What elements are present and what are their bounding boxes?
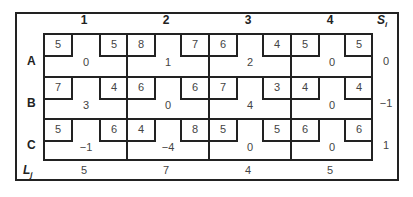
cost-box: 5 — [210, 120, 238, 142]
cost-box: 4 — [292, 78, 320, 100]
si-value-a: 0 — [376, 55, 396, 67]
row-header-a: A — [27, 54, 41, 68]
reduced-cost-box: 4 — [262, 35, 290, 57]
cost-box: 6 — [128, 78, 156, 100]
reduced-cost-box: 5 — [99, 35, 127, 57]
cell-value: 0 — [128, 99, 208, 111]
cost-box: 6 — [210, 35, 238, 57]
cell-value: 0 — [210, 141, 290, 153]
reduced-cost-box: 4 — [99, 78, 127, 100]
reduced-cost-box: 6 — [180, 78, 208, 100]
cell-value: 0 — [45, 56, 127, 68]
reduced-cost-box: 8 — [180, 120, 208, 142]
lj-value-1: 5 — [43, 164, 125, 176]
column-header-1: 1 — [43, 13, 125, 27]
cell-a1: 5 5 0 — [45, 35, 127, 77]
cell-value: 0 — [292, 141, 372, 153]
lj-value-4: 5 — [289, 164, 371, 176]
cost-grid: 5 5 0 8 7 1 6 4 2 5 5 0 7 4 3 6 6 0 7 3 … — [43, 33, 373, 161]
cell-value: 0 — [292, 56, 372, 68]
cell-a4: 5 5 0 — [290, 35, 372, 77]
cost-box: 5 — [45, 120, 73, 142]
cell-b3: 7 3 4 — [208, 76, 290, 118]
reduced-cost-box: 7 — [180, 35, 208, 57]
column-header-4: 4 — [289, 13, 371, 27]
cell-c2: 4 8 −4 — [126, 118, 208, 160]
reduced-cost-box: 5 — [344, 35, 372, 57]
reduced-cost-box: 6 — [344, 120, 372, 142]
cell-value: 4 — [210, 99, 290, 111]
column-header-2: 2 — [125, 13, 207, 27]
reduced-cost-box: 6 — [99, 120, 127, 142]
lj-header: Lj — [23, 163, 33, 179]
cost-box: 5 — [45, 35, 73, 57]
cost-box: 6 — [292, 120, 320, 142]
lj-value-2: 7 — [125, 164, 207, 176]
cell-value: −4 — [128, 141, 208, 153]
cost-box: 8 — [128, 35, 156, 57]
cell-a2: 8 7 1 — [126, 35, 208, 77]
cell-c1: 5 6 −1 — [45, 118, 127, 160]
cell-c4: 6 6 0 — [290, 118, 372, 160]
cell-value: 0 — [292, 99, 372, 111]
cell-value: 1 — [128, 56, 208, 68]
cell-value: 3 — [45, 99, 127, 111]
cell-b4: 4 4 0 — [290, 76, 372, 118]
row-header-c: C — [27, 138, 41, 152]
cell-value: 2 — [210, 56, 290, 68]
row-header-b: B — [27, 96, 41, 110]
cell-b1: 7 4 3 — [45, 76, 127, 118]
cost-box: 7 — [210, 78, 238, 100]
cost-box: 4 — [128, 120, 156, 142]
cell-value: −1 — [45, 141, 127, 153]
cost-box: 5 — [292, 35, 320, 57]
reduced-cost-box: 3 — [262, 78, 290, 100]
cost-box: 7 — [45, 78, 73, 100]
reduced-cost-box: 4 — [344, 78, 372, 100]
si-value-c: 1 — [376, 139, 396, 151]
reduced-cost-box: 5 — [262, 120, 290, 142]
cell-a3: 6 4 2 — [208, 35, 290, 77]
cell-c3: 5 5 0 — [208, 118, 290, 160]
column-header-3: 3 — [207, 13, 289, 27]
si-header: Si — [377, 13, 387, 29]
lj-value-3: 4 — [207, 164, 289, 176]
si-value-b: −1 — [376, 97, 396, 109]
cell-b2: 6 6 0 — [126, 76, 208, 118]
